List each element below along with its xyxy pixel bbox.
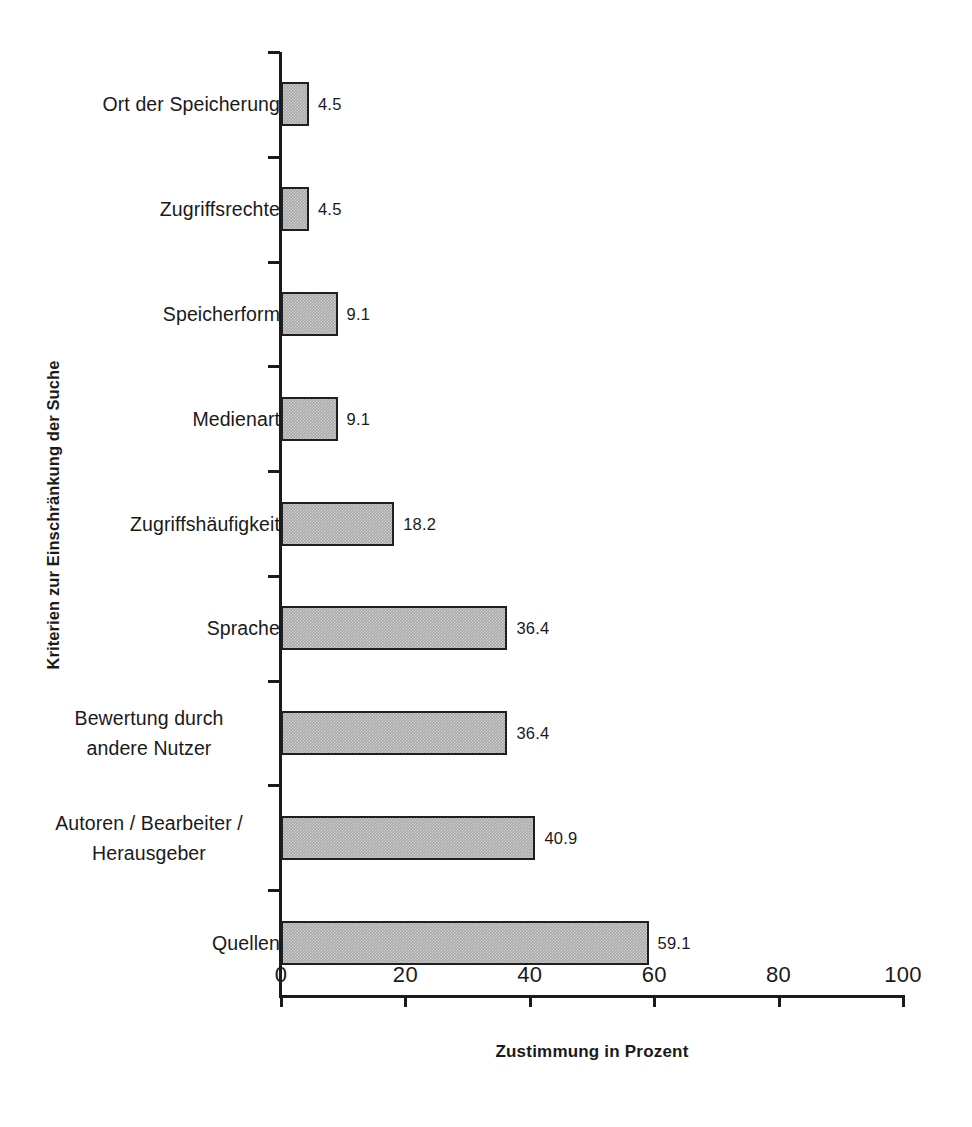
x-axis-line — [279, 995, 905, 998]
bar-row: 59.1 — [281, 921, 903, 965]
bar-row: 9.1 — [281, 397, 903, 441]
category-label-line: Zugriffsrechte — [0, 194, 280, 224]
bar[interactable] — [281, 816, 535, 860]
x-axis-tick-label: 40 — [490, 962, 570, 988]
bar-value-label: 4.5 — [318, 200, 342, 219]
category-label-line: Herausgeber — [19, 838, 279, 868]
category-label-line: Sprache — [0, 613, 280, 643]
bar[interactable] — [281, 502, 394, 546]
category-label-line: Bewertung durch — [19, 703, 279, 733]
bar[interactable] — [281, 82, 309, 126]
bar-value-label: 9.1 — [347, 304, 371, 323]
category-label: Speicherform — [0, 299, 280, 329]
category-label: Bewertung durchandere Nutzer — [19, 703, 279, 763]
x-axis-tick — [529, 995, 532, 1007]
x-axis-tick — [778, 995, 781, 1007]
y-axis-tick — [268, 51, 280, 54]
bar-row: 4.5 — [281, 187, 903, 231]
category-label: Quellen — [0, 928, 280, 958]
bar[interactable] — [281, 711, 507, 755]
bar-row: 36.4 — [281, 606, 903, 650]
x-axis-tick-label: 80 — [739, 962, 819, 988]
bar-value-label: 36.4 — [516, 619, 549, 638]
y-axis-tick — [268, 156, 280, 159]
bar-row: 36.4 — [281, 711, 903, 755]
bar[interactable] — [281, 397, 338, 441]
category-label: Autoren / Bearbeiter /Herausgeber — [19, 808, 279, 868]
category-label-line: Speicherform — [0, 299, 280, 329]
category-label: Zugriffsrechte — [0, 194, 280, 224]
category-label-line: Zugriffshäufigkeit — [0, 509, 280, 539]
bar[interactable] — [281, 606, 507, 650]
x-axis-tick — [902, 995, 905, 1007]
x-axis-tick-label: 60 — [614, 962, 694, 988]
category-label-line: Quellen — [0, 928, 280, 958]
bar-value-label: 40.9 — [544, 828, 577, 847]
category-label: Zugriffshäufigkeit — [0, 509, 280, 539]
x-axis-tick — [404, 995, 407, 1007]
bar[interactable] — [281, 187, 309, 231]
bar[interactable] — [281, 292, 338, 336]
x-axis-tick — [653, 995, 656, 1007]
bar-value-label: 36.4 — [516, 724, 549, 743]
x-axis-tick-label: 0 — [241, 962, 321, 988]
x-axis-title: Zustimmung in Prozent — [281, 1042, 903, 1062]
category-label-line: Autoren / Bearbeiter / — [19, 808, 279, 838]
bar-chart: Kriterien zur Einschränkung der Suche 4.… — [0, 0, 972, 1127]
y-axis-tick — [268, 261, 280, 264]
x-axis-tick-label: 20 — [365, 962, 445, 988]
bar-value-label: 18.2 — [403, 514, 436, 533]
category-label: Sprache — [0, 613, 280, 643]
bar-value-label: 4.5 — [318, 95, 342, 114]
category-label: Ort der Speicherung — [0, 89, 280, 119]
bar-row: 4.5 — [281, 82, 903, 126]
category-label-line: Medienart — [0, 404, 280, 434]
y-axis-tick — [268, 575, 280, 578]
y-axis-tick — [268, 365, 280, 368]
category-label: Medienart — [0, 404, 280, 434]
category-label-line: Ort der Speicherung — [0, 89, 280, 119]
y-axis-tick — [268, 784, 280, 787]
y-axis-tick — [268, 680, 280, 683]
bar-value-label: 9.1 — [347, 409, 371, 428]
category-label-line: andere Nutzer — [19, 733, 279, 763]
y-axis-tick — [268, 470, 280, 473]
y-axis-tick — [268, 889, 280, 892]
plot-area: 4.54.59.19.118.236.436.440.959.1 — [281, 52, 903, 995]
x-axis-tick — [280, 995, 283, 1007]
x-axis-tick-label: 100 — [863, 962, 943, 988]
bar-row: 40.9 — [281, 816, 903, 860]
bar[interactable] — [281, 921, 649, 965]
bar-row: 9.1 — [281, 292, 903, 336]
bar-row: 18.2 — [281, 502, 903, 546]
bar-value-label: 59.1 — [658, 933, 691, 952]
